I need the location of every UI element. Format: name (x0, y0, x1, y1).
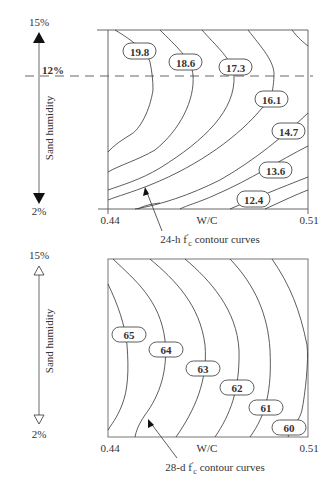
contour-label-60: 60 (284, 422, 296, 434)
contour-label-62: 62 (232, 382, 244, 394)
bottom-x-max-label: 0.51 (299, 442, 318, 454)
contour-label-19-8: 19.8 (130, 46, 150, 58)
top-x-max-label: 0.51 (299, 214, 318, 226)
figure: 15% 2% Sand humidity 12% 1 (0, 0, 331, 488)
contour-label-61: 61 (261, 402, 272, 414)
arrow-up-hollow-icon (34, 266, 44, 275)
contour-label-16-1: 16.1 (262, 94, 281, 106)
contour-label-64: 64 (161, 344, 173, 356)
arrow-up-filled-icon (33, 32, 45, 43)
bottom-contour-labels: 65 64 63 62 61 60 (112, 327, 306, 435)
bottom-x-min-label: 0.44 (100, 442, 120, 454)
bottom-pointer-line (150, 422, 177, 458)
top-caption: 24-h f'c contour curves (160, 233, 259, 248)
bottom-y-max-label: 15% (29, 249, 49, 261)
bottom-plot: 15% 2% Sand humidity 65 64 63 62 61 (29, 249, 319, 476)
arrow-down-hollow-icon (34, 415, 44, 424)
bottom-y-min-label: 2% (32, 428, 47, 440)
reference-line-label: 12% (42, 64, 64, 76)
top-y-max-label: 15% (29, 16, 49, 28)
contour-label-12-4: 12.4 (244, 194, 264, 206)
contour-label-14-7: 14.7 (279, 126, 299, 138)
bottom-caption: 28-d f'c contour curves (165, 461, 264, 476)
top-x-min-label: 0.44 (100, 214, 120, 226)
contour-label-17-3: 17.3 (226, 62, 246, 74)
bottom-x-axis-title: W/C (197, 442, 218, 454)
contour-label-63: 63 (198, 363, 210, 375)
top-y-min-label: 2% (32, 205, 47, 217)
contour-label-18-6: 18.6 (176, 57, 196, 69)
contour-label-13-6: 13.6 (266, 165, 286, 177)
top-x-axis-title: W/C (197, 214, 218, 226)
top-plot: 15% 2% Sand humidity 12% 1 (25, 16, 319, 248)
bottom-y-axis-title: Sand humidity (43, 308, 55, 373)
top-y-axis-title: Sand humidity (43, 95, 55, 160)
contour-label-65: 65 (124, 329, 136, 341)
arrow-down-filled-icon (33, 193, 45, 204)
top-pointer-line (146, 190, 162, 231)
